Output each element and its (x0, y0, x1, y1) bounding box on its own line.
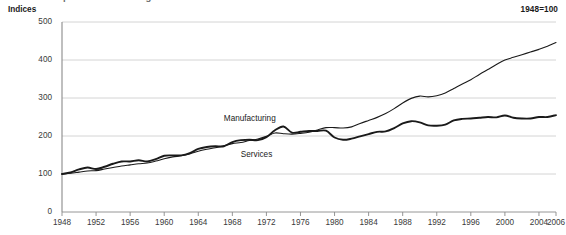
plot-canvas (0, 0, 566, 235)
x-tick-label: 2006 (547, 218, 565, 227)
x-tick-label: 1972 (257, 218, 275, 227)
x-tick-label: 1980 (325, 218, 343, 227)
data-series-group (62, 43, 556, 174)
series-label-services: Services (241, 150, 272, 159)
series-label-manufacturing: Manufacturing (224, 114, 276, 123)
y-tick-label: 0 (12, 207, 52, 216)
x-tick-label: 1988 (394, 218, 412, 227)
y-tick-label: 400 (12, 55, 52, 64)
series-line-manufacturing (62, 115, 556, 174)
x-tick-label: 1964 (189, 218, 207, 227)
x-tick-label: 2004 (530, 218, 548, 227)
x-tick-label: 1968 (223, 218, 241, 227)
y-tick-label: 300 (12, 93, 52, 102)
x-tick-label: 1992 (428, 218, 446, 227)
y-tick-label: 100 (12, 169, 52, 178)
x-tick-label: 1952 (87, 218, 105, 227)
x-tick-label: 1976 (291, 218, 309, 227)
x-tick-label: 2000 (496, 218, 514, 227)
y-tick-label: 500 (12, 17, 52, 26)
x-tick-label: 1956 (121, 218, 139, 227)
x-tick-label: 1948 (53, 218, 71, 227)
axis-tick-marks (62, 212, 556, 216)
x-tick-label: 1960 (155, 218, 173, 227)
y-tick-label: 200 (12, 131, 52, 140)
series-line-services (62, 43, 556, 174)
chart-figure: Index of output: manufacturing and servi… (0, 0, 566, 235)
x-tick-label: 1996 (462, 218, 480, 227)
x-tick-label: 1984 (360, 218, 378, 227)
